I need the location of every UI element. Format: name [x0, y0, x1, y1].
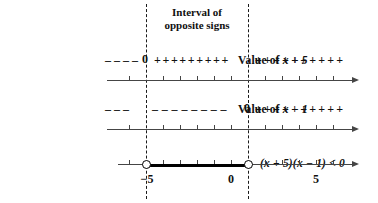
row2-left-signs: – – –	[105, 103, 129, 115]
critical-value-guide-neg5	[146, 4, 147, 199]
number-line-row1-arrow-icon	[352, 77, 359, 83]
tick-row2	[299, 125, 300, 130]
row1-left-signs: – – – –	[105, 54, 138, 66]
tick-row2	[214, 125, 215, 130]
tick-row3	[282, 160, 283, 165]
tick-row1	[265, 76, 266, 81]
row2-right-signs: + + + + + + + + + +	[255, 103, 343, 115]
number-line-row2-arrow-icon	[352, 126, 359, 132]
tick-row2	[129, 125, 130, 130]
tick-row3	[265, 160, 266, 165]
tick-label-neg5: −5	[141, 173, 154, 185]
tick-label-5: 5	[313, 173, 319, 185]
tick-row1	[299, 76, 300, 81]
tick-row2	[316, 125, 317, 130]
solution-interval-segment	[146, 164, 248, 167]
tick-row2	[163, 125, 164, 130]
tick-row1	[180, 76, 181, 81]
endpoint-open-circle-neg5	[142, 160, 151, 169]
tick-row3	[299, 160, 300, 165]
number-line-row3-arrow-icon	[352, 161, 359, 167]
tick-row1	[282, 76, 283, 81]
tick-row1	[231, 76, 232, 81]
row1-middle-signs: + + + + + + + + +	[154, 54, 228, 66]
row1-zero-mark: 0	[142, 53, 148, 65]
endpoint-open-circle-1	[244, 160, 253, 169]
tick-row3	[129, 160, 130, 165]
tick-row2	[180, 125, 181, 130]
tick-row2	[197, 125, 198, 130]
interval-caption: Interval of opposite signs	[146, 6, 248, 32]
tick-row1	[333, 76, 334, 81]
interval-caption-line1: Interval of	[146, 6, 248, 19]
tick-row1	[316, 76, 317, 81]
tick-row1	[163, 76, 164, 81]
row2-zero-mark: 0	[244, 102, 250, 114]
tick-row3	[316, 160, 317, 165]
row2-middle-signs: – – – – – – – –	[152, 103, 227, 115]
tick-row2	[333, 125, 334, 130]
tick-row2	[265, 125, 266, 130]
interval-caption-line2: opposite signs	[146, 19, 248, 32]
tick-label-0: 0	[228, 173, 234, 185]
sign-chart-figure: Interval of opposite signs Value of x + …	[0, 0, 378, 203]
tick-row1	[214, 76, 215, 81]
tick-row3	[333, 160, 334, 165]
tick-row1	[129, 76, 130, 81]
tick-row2	[282, 125, 283, 130]
tick-row1	[197, 76, 198, 81]
tick-row2	[231, 125, 232, 130]
row1-right-signs: + + + + + + + + + +	[255, 54, 343, 66]
